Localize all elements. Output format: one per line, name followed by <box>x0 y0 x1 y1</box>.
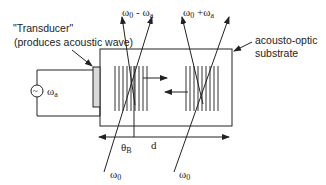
substrate-label-line2: substrate <box>255 47 298 59</box>
distance-label: d <box>151 139 157 151</box>
incident-beam-right <box>174 17 229 172</box>
substrate-label-line1: acousto-optic <box>255 34 317 46</box>
sum-frequency-label: ω0 +ωa <box>183 6 214 22</box>
incident-frequency-left-label: ω0 <box>110 168 121 184</box>
diffracted-beam-right <box>182 17 203 104</box>
ac-source-symbol: ~ <box>33 85 38 97</box>
transducer-label: "Transducer" <box>13 22 73 34</box>
difference-frequency-label: ω0 - ωa <box>122 6 153 22</box>
acoustic-grating-right <box>186 66 218 111</box>
incident-frequency-right-label: ω0 <box>179 168 190 184</box>
bragg-angle-label: θB <box>121 141 132 157</box>
rf-circuit <box>31 70 100 116</box>
acoustic-grating-left <box>115 66 147 111</box>
substrate-pointer <box>234 42 252 51</box>
substrate-block <box>100 49 232 126</box>
source-frequency-label: ωa <box>47 85 58 101</box>
transducer <box>93 67 100 107</box>
transducer-pointer <box>72 50 92 66</box>
transducer-description: (produces acoustic wave) <box>14 36 133 48</box>
